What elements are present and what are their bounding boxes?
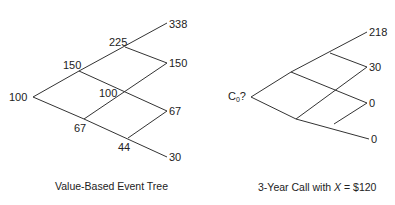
left-event-tree: 100 150 67 225 100 44 338 150 67 30 Valu… — [9, 18, 187, 192]
leaf-ddd-value: 0 — [371, 133, 377, 145]
edge — [291, 72, 367, 103]
edge — [125, 47, 167, 63]
edge — [128, 111, 167, 138]
edge — [33, 71, 79, 97]
edge — [33, 97, 84, 119]
node-dd-value: 44 — [118, 141, 130, 153]
node-ud-value: 100 — [99, 87, 117, 99]
edge — [251, 97, 296, 119]
edge — [251, 72, 291, 97]
leaf-uuu-value: 338 — [169, 18, 187, 30]
diagram-canvas: 100 150 67 225 100 44 338 150 67 30 Valu… — [0, 0, 395, 205]
leaf-uud-value: 30 — [369, 61, 381, 73]
right-tree-caption: 3-Year Call with X = $120 — [258, 181, 377, 193]
edge — [291, 32, 367, 72]
right-call-tree: C0? 218 30 0 0 3-Year Call with X = $120 — [228, 26, 387, 193]
node-uu-value: 225 — [109, 36, 127, 48]
node-u-value: 150 — [63, 59, 81, 71]
leaf-ddd-value: 30 — [169, 151, 181, 163]
node-root-value: 100 — [9, 91, 27, 103]
leaf-udd-value: 67 — [169, 105, 181, 117]
edge — [296, 119, 369, 139]
node-root-label: C0? — [228, 90, 246, 103]
node-d-value: 67 — [74, 122, 86, 134]
leaf-uuu-value: 218 — [369, 26, 387, 38]
leaf-udd-value: 0 — [369, 97, 375, 109]
edge — [79, 71, 167, 111]
left-tree-caption: Value-Based Event Tree — [55, 180, 168, 192]
edge — [296, 67, 367, 119]
edge — [334, 103, 367, 124]
edge — [84, 63, 167, 119]
leaf-uud-value: 150 — [169, 57, 187, 69]
edge — [330, 53, 367, 67]
